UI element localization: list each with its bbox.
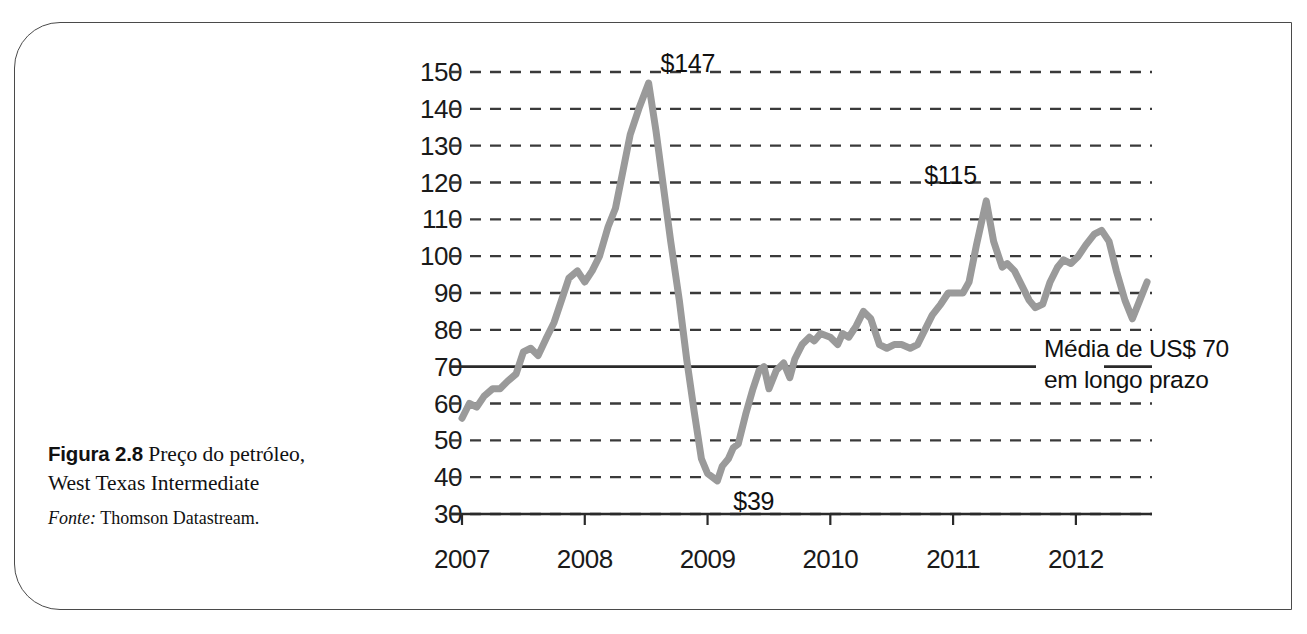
annotation-price-147: $147 [661,49,715,78]
x-tick-label-2008: 2008 [557,544,613,575]
caption-source: Fonte: Thomson Datastream. [48,508,378,529]
caption-title-part1: Preço do petróleo, [148,442,305,466]
source-label: Fonte: [48,508,96,528]
figure-number: Figura 2.8 [48,442,143,465]
x-tick-label-2011: 2011 [926,544,980,575]
annotation-price-39: $39 [733,487,774,516]
x-tick-label-2009: 2009 [680,544,736,575]
price-line [462,83,1147,481]
figure-caption: Figura 2.8 Preço do petróleo, West Texas… [48,440,378,529]
chart-area: 15014013012011010090807060504030 2007200… [404,62,1164,542]
annotation-price-115: $115 [924,161,977,190]
x-tick-label-2007: 2007 [434,544,490,575]
source-value: Thomson Datastream. [100,508,259,528]
average-label-line1: Média de US$ 70 [1044,333,1229,364]
caption-title-line1: Figura 2.8 Preço do petróleo, [48,440,378,469]
annotation-average-price: Média de US$ 70em longo prazo [1044,333,1229,396]
x-axis-labels: 200720082009201020112012 [404,544,1164,584]
x-tick-label-2010: 2010 [802,544,858,575]
x-tick-label-2012: 2012 [1048,544,1104,575]
average-label-line2: em longo prazo [1044,364,1229,395]
figure-page: Figura 2.8 Preço do petróleo, West Texas… [0,0,1307,634]
chart-svg [404,62,1164,542]
caption-title-line2: West Texas Intermediate [48,469,378,498]
